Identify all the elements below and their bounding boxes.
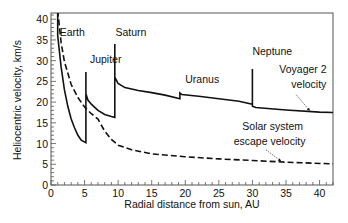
y-tick-label: 10 bbox=[36, 138, 48, 150]
y-tick-label: 40 bbox=[36, 13, 48, 25]
annotation-label: escape velocity bbox=[234, 135, 307, 147]
x-tick-label: 0 bbox=[48, 187, 54, 199]
x-tick-label: 35 bbox=[280, 187, 292, 199]
y-tick-label: 20 bbox=[36, 96, 48, 108]
annotation-label: Earth bbox=[60, 26, 85, 38]
x-axis-label: Radial distance from sun, AU bbox=[124, 198, 259, 210]
y-tick-label: 15 bbox=[36, 117, 48, 129]
y-tick-label: 5 bbox=[42, 158, 48, 170]
annotation-arrow bbox=[296, 95, 309, 111]
annotation-arrow bbox=[266, 150, 281, 161]
annotation-label: Jupiter bbox=[90, 53, 122, 65]
axes: 05101520253035400510152025303540 bbox=[36, 13, 333, 199]
y-tick-label: 0 bbox=[42, 179, 48, 191]
annotation-label: Saturn bbox=[115, 26, 146, 38]
annotations: EarthJupiterSaturnUranusNeptuneVoyager 2… bbox=[60, 26, 327, 161]
x-tick-label: 5 bbox=[82, 187, 88, 199]
annotation-label: Neptune bbox=[252, 45, 292, 57]
chart-container: 05101520253035400510152025303540 EarthJu… bbox=[0, 0, 348, 223]
plot-frame bbox=[51, 13, 333, 185]
y-axis-label: Heliocentric velocity, km/s bbox=[11, 40, 23, 160]
x-tick-label: 40 bbox=[314, 187, 326, 199]
y-tick-label: 35 bbox=[36, 34, 48, 46]
x-tick-label: 10 bbox=[112, 187, 124, 199]
annotation-label: velocity bbox=[291, 78, 327, 90]
annotation-label: Solar system bbox=[242, 120, 303, 132]
y-tick-label: 25 bbox=[36, 75, 48, 87]
annotation-label: Voyager 2 bbox=[279, 63, 326, 75]
y-tick-label: 30 bbox=[36, 55, 48, 67]
annotation-label: Uranus bbox=[185, 73, 219, 85]
velocity-chart: 05101520253035400510152025303540 EarthJu… bbox=[0, 0, 348, 223]
